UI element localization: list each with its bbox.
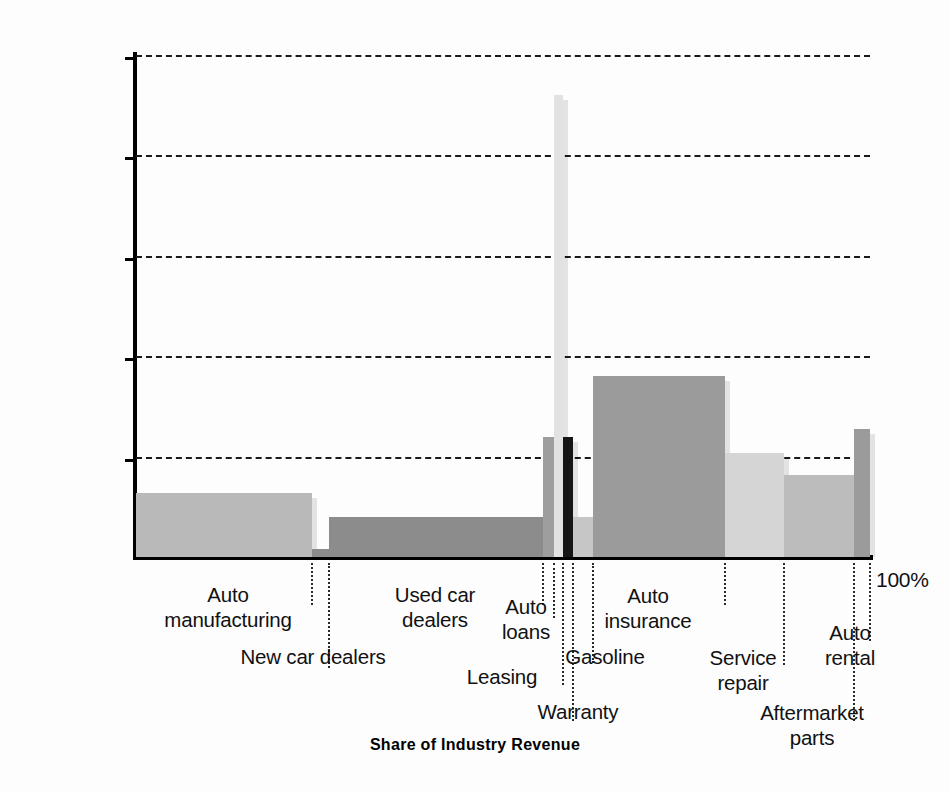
bar-new-car-dealers xyxy=(312,549,329,557)
bar-gasoline xyxy=(573,517,593,557)
gridline-25 xyxy=(136,55,870,57)
xcat-warranty: Warranty xyxy=(478,700,678,724)
gridline-15 xyxy=(136,256,870,258)
bar-leasing xyxy=(554,95,563,557)
y-tick-mark-10 xyxy=(125,358,136,361)
x-axis-end-label: 100% xyxy=(876,568,929,592)
bar-aftermarket-parts xyxy=(784,475,854,557)
x-axis-title: Share of Industry Revenue xyxy=(0,736,950,754)
y-tick-mark-15 xyxy=(125,258,136,261)
bar-service-repair xyxy=(725,453,784,557)
bar-shadow xyxy=(870,434,875,558)
chart-canvas: Operating Margin 25% 20% 15% 10% 5% 0% A… xyxy=(0,0,950,792)
gridline-20 xyxy=(136,155,870,157)
y-tick-mark-25 xyxy=(125,57,136,60)
bar-warranty xyxy=(563,437,573,557)
bar-used-car-dealers xyxy=(329,517,543,557)
xcat-auto-insurance-line2: insurance xyxy=(538,608,758,633)
y-tick-mark-5 xyxy=(125,459,136,462)
bar-auto-insurance xyxy=(593,376,725,557)
xcat-auto-rental: Auto rental xyxy=(790,620,910,670)
xcat-auto-rental-line2: rental xyxy=(790,645,910,670)
xcat-service-repair-line2: repair xyxy=(653,670,833,695)
y-tick-mark-20 xyxy=(125,157,136,160)
bar-auto-loans xyxy=(543,437,554,557)
xcat-auto-insurance: Auto insurance xyxy=(538,583,758,633)
xcat-auto-rental-line1: Auto xyxy=(790,620,910,645)
plot-area xyxy=(136,55,870,557)
bar-auto-rental xyxy=(854,429,870,558)
xcat-auto-insurance-line1: Auto xyxy=(538,583,758,608)
xcat-aftermarket-parts-line1: Aftermarket xyxy=(692,700,932,725)
gridline-10 xyxy=(136,356,870,358)
bar-auto-manufacturing xyxy=(136,493,312,557)
